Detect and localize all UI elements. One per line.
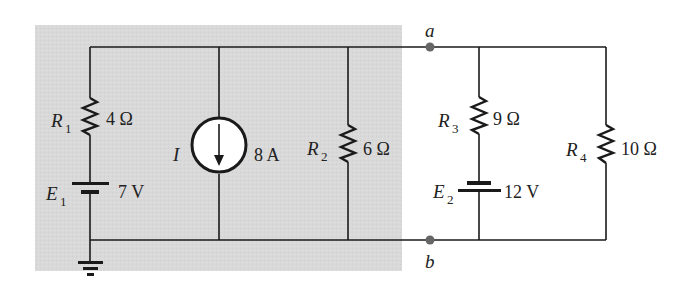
r3-value: 9 Ω [493, 109, 520, 129]
circuit-diagram: a b R 1 4 Ω E 1 7 V I 8 A R 2 6 Ω R 3 9 … [0, 0, 691, 292]
r2-subscript: 2 [321, 149, 328, 164]
branch-r4 [599, 47, 613, 240]
r4-subscript: 4 [580, 150, 587, 165]
node-a [426, 43, 435, 52]
e1-value: 7 V [118, 182, 144, 202]
r1-subscript: 1 [65, 121, 72, 136]
r3-symbol: R [437, 110, 450, 131]
r4-value: 10 Ω [621, 139, 657, 159]
r3-subscript: 3 [452, 121, 459, 136]
r2-symbol: R [306, 138, 319, 159]
r2-value: 6 Ω [363, 139, 390, 159]
e2-symbol: E [432, 181, 445, 202]
r4-symbol: R [565, 139, 578, 160]
resistor-r4-icon [599, 125, 613, 163]
e2-subscript: 2 [447, 192, 454, 207]
e1-subscript: 1 [60, 194, 67, 209]
battery-e2-icon [458, 181, 501, 192]
e2-value: 12 V [504, 182, 539, 202]
current-source-value: 8 A [254, 145, 280, 165]
branch-r3-e2 [472, 47, 486, 240]
r1-value: 4 Ω [106, 109, 133, 129]
r1-symbol: R [50, 110, 63, 131]
resistor-r3-icon [472, 97, 486, 134]
current-source-icon [192, 118, 246, 172]
node-b-label: b [425, 251, 435, 272]
e1-symbol: E [45, 183, 58, 204]
node-a-label: a [425, 20, 435, 41]
node-b [426, 236, 435, 245]
